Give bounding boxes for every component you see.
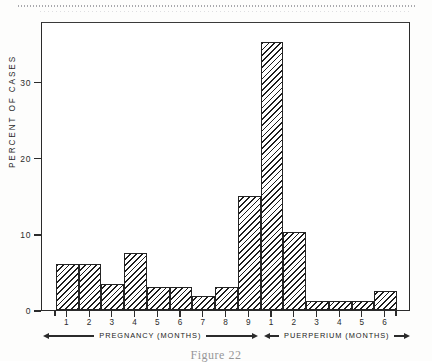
bar <box>238 196 261 310</box>
y-axis-tick-label: 20 <box>20 154 31 164</box>
bar <box>306 301 329 310</box>
x-axis-tick <box>316 311 317 317</box>
arrow-line <box>270 335 280 336</box>
group-label-puerperium: PUERPERIUM (MONTHS) <box>264 330 410 342</box>
x-axis-tick-label: 6 <box>178 318 183 327</box>
x-axis-tick <box>157 311 158 317</box>
bar <box>192 296 215 310</box>
scan-artifact-line <box>18 5 416 7</box>
bar <box>352 301 375 310</box>
bar <box>261 42 284 310</box>
scan-artifact-line-secondary <box>40 11 410 12</box>
y-axis: 0102030 <box>0 0 41 311</box>
y-axis-tick-label: 0 <box>26 306 31 316</box>
x-axis-tick-label: 1 <box>64 318 69 327</box>
arrow-right-icon <box>404 333 410 339</box>
x-axis-tick <box>361 311 362 317</box>
bar <box>56 264 79 310</box>
x-axis-tick <box>134 311 135 317</box>
arrow-right-icon <box>252 333 258 339</box>
x-axis-tick-label: 1 <box>269 318 274 327</box>
group-label-pregnancy: PREGNANCY (MONTHS) <box>43 330 258 342</box>
bar <box>170 287 193 310</box>
bar <box>374 291 397 310</box>
bar <box>215 287 238 310</box>
x-axis-tick-label: 2 <box>291 318 296 327</box>
y-axis-tick <box>34 158 41 159</box>
x-axis-tick-label: 8 <box>223 318 228 327</box>
bar <box>124 253 147 310</box>
group-label-puerperium-text: PUERPERIUM (MONTHS) <box>279 331 394 340</box>
x-axis-tick <box>54 311 55 316</box>
bar <box>79 264 102 310</box>
y-axis-tick-label: 10 <box>20 230 31 240</box>
x-axis-tick-label: 4 <box>337 318 342 327</box>
x-axis-tick <box>179 311 180 317</box>
y-axis-tick <box>34 234 41 235</box>
x-axis-tick <box>395 311 396 316</box>
x-axis-tick-label: 5 <box>155 318 160 327</box>
y-axis-tick-label: 30 <box>20 78 31 88</box>
x-axis-tick-label: 2 <box>87 318 92 327</box>
x-axis-tick <box>89 311 90 317</box>
group-label-pregnancy-text: PREGNANCY (MONTHS) <box>94 331 206 340</box>
figure-caption: Figure 22 <box>0 348 432 363</box>
arrow-line <box>394 335 404 336</box>
bar <box>283 232 306 310</box>
y-axis-tick <box>34 82 41 83</box>
y-axis-tick <box>34 310 41 311</box>
x-axis-tick <box>66 311 67 317</box>
x-axis-tick-label: 9 <box>246 318 251 327</box>
arrow-line <box>49 335 94 336</box>
bars-container <box>42 21 411 310</box>
bar <box>329 301 352 310</box>
x-axis-tick <box>339 311 340 317</box>
bar <box>101 284 124 310</box>
arrow-line <box>206 335 251 336</box>
histogram-plot-area <box>41 22 410 311</box>
x-axis-tick <box>111 311 112 317</box>
x-axis-tick <box>202 311 203 317</box>
x-axis-tick <box>225 311 226 317</box>
x-axis-tick <box>384 311 385 317</box>
x-axis-tick-label: 3 <box>110 318 115 327</box>
bar <box>147 287 170 310</box>
x-axis-tick-label: 6 <box>382 318 387 327</box>
x-axis-tick-label: 3 <box>314 318 319 327</box>
x-axis-tick <box>270 311 271 317</box>
x-axis-tick <box>248 311 249 317</box>
x-axis-tick-label: 7 <box>200 318 205 327</box>
x-axis-tick <box>293 311 294 317</box>
x-axis-tick-label: 5 <box>360 318 365 327</box>
x-axis-tick-label: 4 <box>132 318 137 327</box>
